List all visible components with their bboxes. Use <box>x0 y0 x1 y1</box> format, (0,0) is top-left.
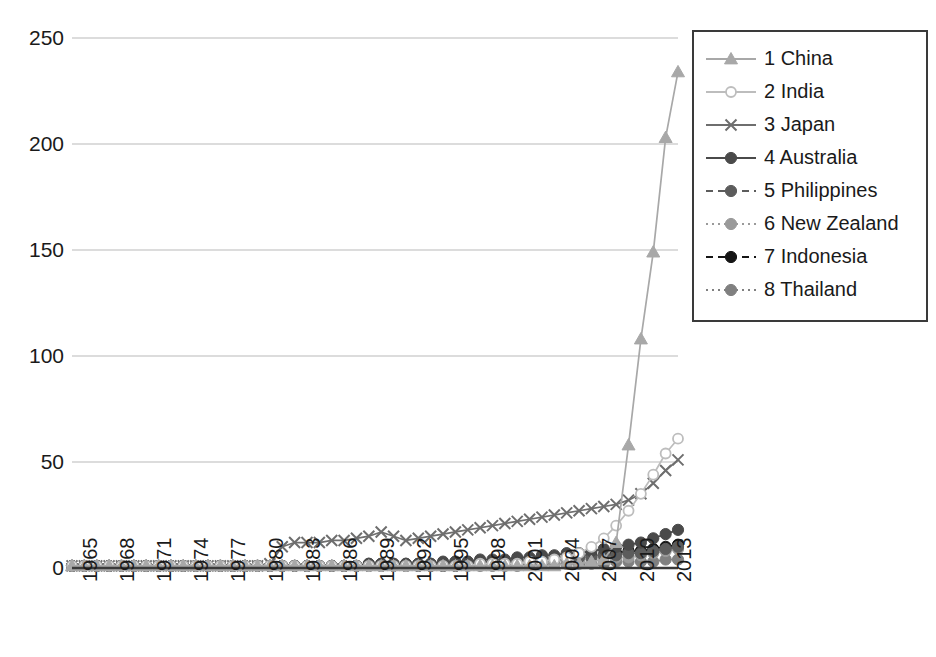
legend-key-icon <box>704 81 758 103</box>
x-tick-label-1971: 1971 <box>154 538 174 583</box>
x-tick-label-2013: 2013 <box>674 538 694 583</box>
x-tick-label-1980: 1980 <box>266 538 286 583</box>
marker-circle-open <box>648 470 658 480</box>
y-tick-label-150: 150 <box>8 239 64 260</box>
marker-cross <box>673 454 684 465</box>
marker-cross <box>623 495 634 506</box>
marker-triangle <box>659 131 672 142</box>
legend-label: 3 Japan <box>764 113 835 136</box>
legend-key-icon <box>704 48 758 70</box>
marker-circle-open <box>726 87 736 97</box>
x-tick-label-2010: 2010 <box>637 538 657 583</box>
marker-circle <box>672 524 683 535</box>
marker-circle <box>725 152 736 163</box>
legend-key-icon <box>704 180 758 202</box>
x-tick-label-1968: 1968 <box>117 538 137 583</box>
x-tick-label-1995: 1995 <box>451 538 471 583</box>
marker-circle <box>725 218 736 229</box>
marker-circle <box>660 543 671 554</box>
y-tick-label-200: 200 <box>8 133 64 154</box>
legend-key-icon <box>704 147 758 169</box>
legend-key-icon <box>704 279 758 301</box>
legend-label: 6 New Zealand <box>764 212 899 235</box>
marker-circle-open <box>661 449 671 459</box>
y-tick-label-250: 250 <box>8 27 64 48</box>
marker-triangle <box>622 439 635 450</box>
marker-circle-open <box>611 521 621 531</box>
x-tick-label-2001: 2001 <box>525 538 545 583</box>
y-tick-label-50: 50 <box>8 451 64 472</box>
x-tick-label-1983: 1983 <box>303 538 323 583</box>
legend-key-icon <box>704 114 758 136</box>
legend-item-8-thailand[interactable]: 8 Thailand <box>704 273 918 306</box>
legend-label: 8 Thailand <box>764 278 857 301</box>
series-line <box>72 72 678 566</box>
marker-circle-open <box>636 489 646 499</box>
legend: 1 China2 India3 Japan4 Australia5 Philip… <box>692 30 928 322</box>
marker-circle <box>725 185 736 196</box>
legend-item-7-indonesia[interactable]: 7 Indonesia <box>704 240 918 273</box>
series-1-china <box>66 65 685 570</box>
x-tick-label-2004: 2004 <box>562 538 582 583</box>
legend-item-4-australia[interactable]: 4 Australia <box>704 141 918 174</box>
marker-circle <box>725 251 736 262</box>
legend-item-2-india[interactable]: 2 India <box>704 75 918 108</box>
x-tick-label-1974: 1974 <box>191 538 211 583</box>
x-tick-label-1989: 1989 <box>377 538 397 583</box>
legend-key-icon <box>704 213 758 235</box>
marker-circle-open <box>586 542 596 552</box>
marker-circle-open <box>673 434 683 444</box>
marker-cross <box>660 465 671 476</box>
x-tick-label-2007: 2007 <box>599 538 619 583</box>
y-tick-label-100: 100 <box>8 345 64 366</box>
legend-label: 1 China <box>764 47 833 70</box>
y-tick-label-0: 0 <box>8 557 64 578</box>
legend-item-5-philippines[interactable]: 5 Philippines <box>704 174 918 207</box>
legend-key-icon <box>704 246 758 268</box>
x-tick-label-1977: 1977 <box>228 538 248 583</box>
marker-circle-open <box>624 506 634 516</box>
chart-container: 050100150200250 196519681971197419771980… <box>0 0 936 657</box>
marker-triangle <box>647 246 660 257</box>
x-tick-label-1986: 1986 <box>340 538 360 583</box>
legend-item-6-new-zealand[interactable]: 6 New Zealand <box>704 207 918 240</box>
marker-circle <box>725 284 736 295</box>
marker-circle <box>660 528 671 539</box>
legend-label: 7 Indonesia <box>764 245 867 268</box>
legend-label: 4 Australia <box>764 146 857 169</box>
x-tick-label-1965: 1965 <box>80 538 100 583</box>
marker-triangle <box>672 65 685 76</box>
legend-label: 5 Philippines <box>764 179 877 202</box>
legend-item-3-japan[interactable]: 3 Japan <box>704 108 918 141</box>
x-tick-label-1992: 1992 <box>414 538 434 583</box>
marker-cross <box>376 526 387 537</box>
x-tick-label-1998: 1998 <box>488 538 508 583</box>
legend-label: 2 India <box>764 80 824 103</box>
legend-item-1-china[interactable]: 1 China <box>704 42 918 75</box>
marker-triangle <box>634 333 647 344</box>
marker-circle <box>623 539 634 550</box>
